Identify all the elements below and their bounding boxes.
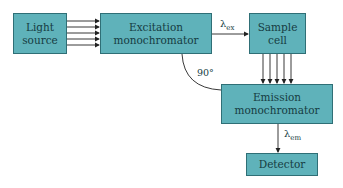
light-source-label-1: Light <box>22 21 58 34</box>
lambda-ex-label: λex <box>220 18 234 32</box>
light-source-label-2: source <box>22 34 58 47</box>
emission-label-2: monochromator <box>234 104 319 117</box>
light-to-excitation-arrows <box>67 21 99 45</box>
detector-box: Detector <box>246 153 318 176</box>
excitation-label-1: Excitation <box>113 21 198 34</box>
sample-cell-box: Sample cell <box>249 13 306 54</box>
sample-to-emission-arrows <box>263 54 291 83</box>
angle-label: 90° <box>197 67 214 78</box>
emission-monochromator-box: Emission monochromator <box>221 84 333 124</box>
lambda-em-label: λem <box>284 128 301 142</box>
light-source-box: Light source <box>13 13 67 54</box>
emission-label-1: Emission <box>234 91 319 104</box>
excitation-label-2: monochromator <box>113 34 198 47</box>
sample-label-1: Sample <box>258 21 298 34</box>
sample-label-2: cell <box>258 34 298 47</box>
excitation-monochromator-box: Excitation monochromator <box>100 13 212 54</box>
detector-label: Detector <box>259 158 306 171</box>
